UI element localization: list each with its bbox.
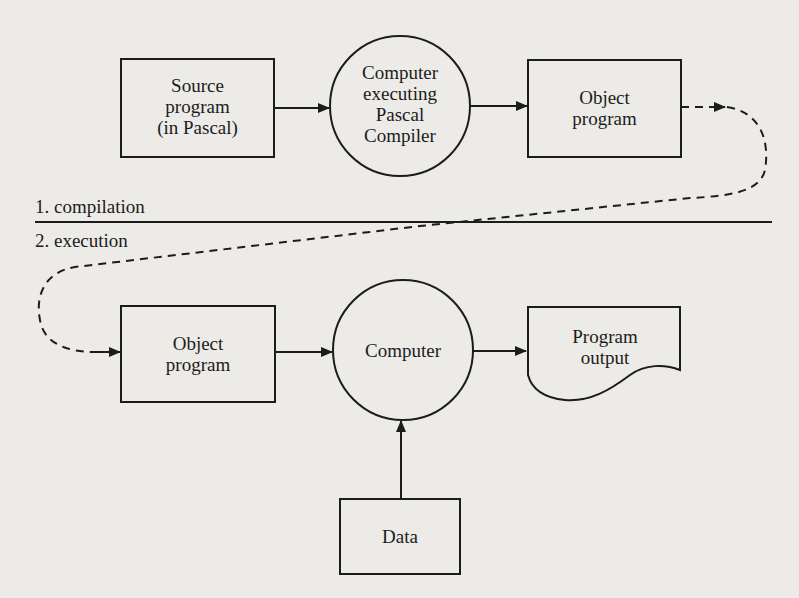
compiler-node-label: Computer executing Pascal Compiler — [330, 62, 470, 146]
source-program-label: Source program (in Pascal) — [121, 75, 274, 138]
object-program-label-exec: Object program — [121, 333, 275, 375]
computer-node-label: Computer — [333, 340, 473, 361]
compilation-execution-diagram: Source program (in Pascal) Computer exec… — [0, 0, 799, 598]
program-output-label: Program output — [560, 326, 650, 368]
data-label: Data — [340, 526, 460, 547]
object-program-label-compile: Object program — [528, 87, 681, 129]
execution-phase-label: 2. execution — [35, 230, 128, 251]
compilation-phase-label: 1. compilation — [35, 196, 145, 217]
